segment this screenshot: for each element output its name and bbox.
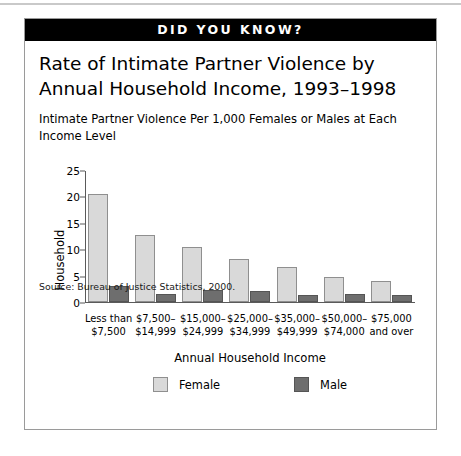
bar-male: [156, 294, 176, 302]
chart-legend: FemaleMale: [85, 377, 415, 392]
bar-group: [274, 170, 321, 302]
bar-male: [250, 291, 270, 302]
legend-swatch-female: [153, 377, 168, 392]
bar-group: [321, 170, 368, 302]
x-axis-tick-label: $75,000 and over: [360, 313, 423, 338]
chart: Household 0510152025Less than $7,500$7,5…: [39, 165, 429, 455]
y-axis-label: Household: [53, 205, 67, 315]
x-axis-line: [85, 302, 415, 303]
bar-female: [182, 247, 202, 302]
legend-swatch-male: [294, 377, 309, 392]
bar-group: [368, 170, 415, 302]
bar-male: [392, 295, 412, 302]
bar-male: [298, 295, 318, 302]
did-you-know-card: DID YOU KNOW? Rate of Intimate Partner V…: [24, 18, 437, 430]
bar-female: [324, 277, 344, 302]
legend-item: Male: [294, 377, 347, 392]
x-axis-label: Annual Household Income: [85, 351, 415, 365]
legend-label: Male: [320, 378, 347, 392]
chart-subtitle: Intimate Partner Violence Per 1,000 Fema…: [39, 111, 429, 145]
legend-item: Female: [153, 377, 220, 392]
page-title: Rate of Intimate Partner Violence by Ann…: [39, 51, 431, 101]
bar-male: [345, 294, 365, 302]
source-note: Source: Bureau of Justice Statistics, 20…: [39, 281, 235, 292]
banner-title: DID YOU KNOW?: [25, 19, 436, 41]
bar-female: [371, 281, 391, 302]
legend-label: Female: [179, 378, 220, 392]
y-axis-tick-mark: [80, 303, 85, 304]
page-top-rule: [0, 3, 461, 5]
bar-female: [277, 267, 297, 302]
